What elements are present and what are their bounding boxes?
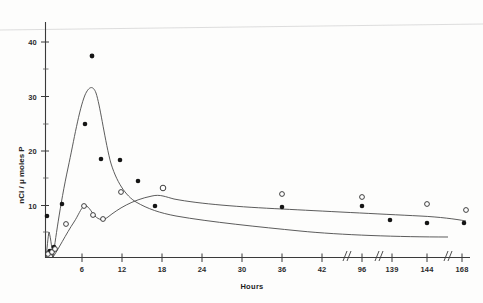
data-point-open — [360, 195, 365, 200]
y-axis-title: nCi / μ moles P — [17, 146, 26, 204]
y-tick-label-20: 20 — [28, 147, 37, 156]
data-point-filled — [153, 204, 158, 209]
data-point-open — [101, 217, 106, 222]
y-tick-label-40: 40 — [28, 38, 37, 47]
data-point-filled — [360, 204, 365, 209]
x-tick-label-24: 24 — [198, 265, 207, 274]
data-point-open — [64, 222, 69, 227]
x-tick-label-144: 144 — [420, 265, 434, 274]
data-point-open — [464, 208, 469, 213]
data-point-filled — [83, 122, 88, 127]
x-tick-label-96: 96 — [358, 265, 367, 274]
open-circle-series — [46, 185, 469, 256]
figure-canvas: 40 30 20 10 nCi / μ moles P — [0, 0, 483, 303]
data-point-open — [53, 247, 58, 252]
x-tick-label-42: 42 — [318, 265, 327, 274]
data-point-filled — [45, 214, 50, 219]
data-point-filled — [388, 218, 393, 223]
y-tick-label-10: 10 — [28, 202, 37, 211]
data-point-open — [82, 204, 87, 209]
x-tick-label-168: 168 — [455, 265, 468, 274]
x-tick-label-6: 6 — [80, 265, 84, 274]
x-axis-break-marks — [343, 251, 452, 261]
y-tick-label-30: 30 — [28, 93, 37, 102]
data-point-open — [119, 190, 124, 195]
x-axis-title: Hours — [240, 282, 263, 291]
data-point-filled — [425, 221, 430, 226]
data-point-open — [91, 213, 96, 218]
data-point-open — [425, 202, 430, 207]
x-tick-label-18: 18 — [158, 265, 167, 274]
data-point-open — [280, 192, 285, 197]
x-tick-label-30: 30 — [238, 265, 247, 274]
data-point-open — [160, 185, 166, 191]
data-point-filled — [90, 54, 95, 59]
data-point-filled — [118, 158, 123, 163]
filled-circle-series — [45, 54, 467, 254]
scan-artifact-line — [0, 24, 483, 30]
data-point-filled — [280, 205, 285, 210]
data-point-filled — [99, 157, 104, 162]
data-point-filled — [136, 179, 141, 184]
scatter-plot: 40 30 20 10 nCi / μ moles P — [0, 0, 483, 303]
x-tick-label-139: 139 — [385, 265, 398, 274]
data-point-filled — [60, 202, 65, 207]
x-tick-label-36: 36 — [278, 265, 287, 274]
data-point-filled — [462, 221, 467, 226]
peak-fit-curve — [46, 88, 448, 257]
x-tick-label-12: 12 — [118, 265, 127, 274]
